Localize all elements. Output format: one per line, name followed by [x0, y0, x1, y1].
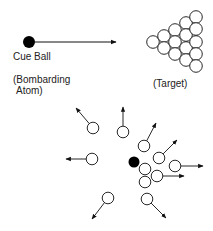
scatter-arrow [92, 203, 104, 219]
target-ball [158, 30, 171, 43]
after-collision-scatter [66, 107, 203, 219]
target-ball [190, 48, 203, 61]
scatter-arrow [163, 140, 177, 154]
scattered-ball [153, 152, 165, 164]
target-ball [169, 48, 182, 61]
cue-ball [23, 36, 35, 48]
cue-ball-after [129, 157, 140, 168]
scattered-ball [102, 192, 114, 204]
cue-ball-label: Cue Ball [13, 51, 51, 62]
scatter-arrow [76, 108, 89, 124]
scattered-ball [139, 176, 151, 188]
target-ball [169, 36, 182, 49]
bombarding-label-line1: (Bombarding [13, 74, 70, 85]
scatter-arrow [151, 203, 166, 218]
target-ball [147, 36, 160, 49]
scattered-ball [87, 122, 99, 134]
billiard-collision-diagram: Cue Ball (Bombarding Atom) (Target) [0, 0, 213, 231]
scatter-arrow [147, 123, 156, 141]
target-label: (Target) [153, 78, 187, 89]
target-ball [190, 11, 203, 24]
scattered-ball [141, 193, 153, 205]
target-ball [158, 42, 171, 55]
scattered-ball [138, 140, 150, 152]
scattered-ball [139, 163, 151, 175]
target-ball [190, 23, 203, 36]
scattered-ball [117, 126, 129, 138]
diagram-canvas [0, 0, 213, 231]
before-collision [23, 11, 202, 73]
bombarding-label-line2: Atom) [16, 85, 43, 96]
scattered-ball [86, 153, 98, 165]
scattered-ball [151, 170, 163, 182]
target-ball [190, 36, 203, 49]
target-ball [190, 60, 203, 73]
scattered-ball [169, 160, 181, 172]
